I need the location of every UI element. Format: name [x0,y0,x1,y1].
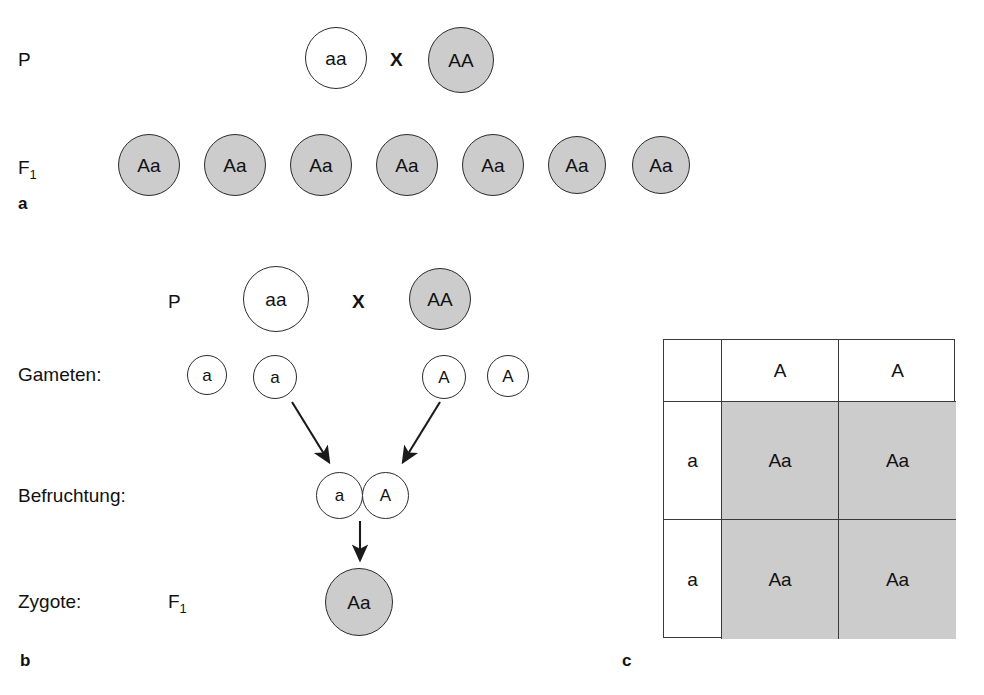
panel-b: P aa X AA Gameten: a a A A Befruchtung: … [0,0,600,695]
panel-b-cross-symbol: X [352,292,365,311]
panel-b-parent-left-genotype: aa [265,290,287,309]
panel-b-p-label: P [168,292,181,311]
punnett-row-header-2: a [664,520,722,639]
panel-b-gamete-left-2-allele: a [270,369,280,386]
punnett-row-header-1: a [664,402,722,520]
panel-b-gamete-left-1: a [187,355,227,395]
panel-b-gamete-right-2-allele: A [502,368,514,385]
punnett-column-header-2: A [839,340,956,402]
punnett-cell-r2c2: Aa [839,520,956,639]
punnett-corner-cell [664,340,722,402]
panel-b-fertilization-gamete-maternal-allele: a [335,487,345,504]
panel-b-fertilization-gamete-paternal-allele: A [380,487,392,504]
panel-b-gamete-right-1-allele: A [438,369,450,386]
panel-b-parent-right-genotype: AA [427,290,453,309]
panel-b-letter: b [20,652,30,669]
panel-b-zygote-circle: Aa [325,568,393,636]
panel-b-gameten-label: Gameten: [18,365,101,384]
punnett-square: A A a Aa Aa a Aa Aa [663,339,955,638]
panel-b-gamete-right-1: A [422,355,466,399]
panel-b-gamete-left-2: a [253,355,297,399]
punnett-cell-r1c2: Aa [839,402,956,520]
punnett-cell-r1c1: Aa [722,402,839,520]
punnett-column-header-1: A [722,340,839,402]
panel-b-fertilization-gamete-maternal: a [316,472,363,519]
panel-b-fertilization-gamete-paternal: A [362,472,409,519]
panel-a-f1-offspring-7: Aa [632,136,690,194]
panel-b-parent-left: aa [243,266,309,332]
panel-c-letter: c [622,652,631,669]
panel-b-gamete-right-2: A [487,355,529,397]
panel-b-gamete-left-1-allele: a [202,367,212,384]
panel-b-befruchtung-label: Befruchtung: [18,486,126,505]
panel-b-zygote-generation-label: F1 [168,592,187,616]
panel-b-parent-right: AA [409,268,471,330]
panel-b-zygote-genotype: Aa [347,593,371,612]
punnett-cell-r2c1: Aa [722,520,839,639]
panel-a-f1-genotype-7: Aa [649,156,673,175]
panel-b-zygote-label: Zygote: [18,592,81,611]
genetics-monohybrid-cross-figure: P aa X AA F1 Aa Aa Aa Aa Aa Aa Aa a [0,0,984,695]
